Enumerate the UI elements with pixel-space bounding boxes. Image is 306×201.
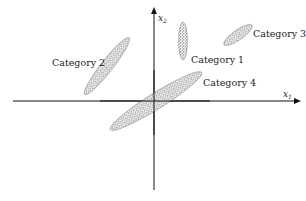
label-category-1: Category 1 [191,54,244,65]
cluster-category-1 [179,22,188,60]
scatter-categories-diagram: x1 x2 Category 1 Category 2 Category 3 C… [0,0,306,201]
x1-axis-label: x1 [283,89,292,100]
cluster-category-3 [221,21,255,49]
x2-arrow-icon [151,7,157,14]
x2-axis-label: x2 [158,13,167,24]
label-category-4: Category 4 [203,77,256,88]
label-category-3: Category 3 [253,28,306,39]
label-category-2: Category 2 [52,57,105,68]
x1-arrow-icon [294,98,301,104]
